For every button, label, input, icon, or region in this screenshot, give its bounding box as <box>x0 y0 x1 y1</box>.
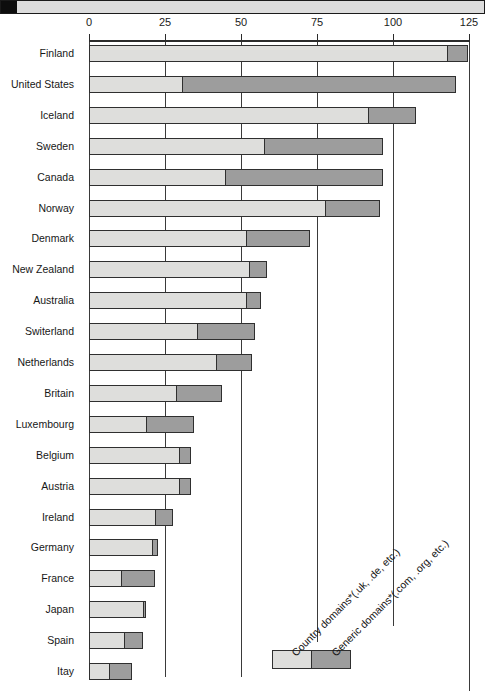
bar-segment-generic-domains[interactable] <box>225 169 383 186</box>
stacked-bar[interactable] <box>89 292 261 309</box>
bar-segment-country-domains[interactable] <box>89 509 156 526</box>
title-bar-caption <box>21 2 480 14</box>
bar-segment-country-domains[interactable] <box>89 45 448 62</box>
bar-segment-generic-domains[interactable] <box>249 261 267 278</box>
bar-row: Germany <box>0 536 485 558</box>
x-tick-label: 75 <box>311 16 323 28</box>
bar-row: France <box>0 567 485 589</box>
category-label: Itay <box>0 660 80 682</box>
bar-segment-generic-domains[interactable] <box>176 385 222 402</box>
bar-segment-generic-domains[interactable] <box>246 230 310 247</box>
stacked-bar[interactable] <box>89 601 146 618</box>
bar-row: Austria <box>0 475 485 497</box>
stacked-bar[interactable] <box>89 478 191 495</box>
bar-segment-generic-domains[interactable] <box>152 539 158 556</box>
bar-segment-generic-domains[interactable] <box>109 663 132 680</box>
category-label: New Zealand <box>0 258 80 280</box>
x-tick-label: 25 <box>159 16 171 28</box>
bar-segment-generic-domains[interactable] <box>197 323 255 340</box>
bar-segment-country-domains[interactable] <box>89 601 144 618</box>
bar-segment-generic-domains[interactable] <box>179 478 191 495</box>
bar-segment-generic-domains[interactable] <box>216 354 252 371</box>
bar-segment-country-domains[interactable] <box>89 230 247 247</box>
bar-segment-generic-domains[interactable] <box>146 416 195 433</box>
bar-segment-generic-domains[interactable] <box>325 200 380 217</box>
bar-segment-country-domains[interactable] <box>89 570 122 587</box>
bar-segment-country-domains[interactable] <box>89 138 265 155</box>
bar-row: Australia <box>0 289 485 311</box>
bar-segment-generic-domains[interactable] <box>155 509 173 526</box>
x-tick-mark <box>241 34 242 42</box>
bar-row: Ireland <box>0 506 485 528</box>
stacked-bar[interactable] <box>89 354 252 371</box>
bar-row: Luxembourg <box>0 413 485 435</box>
category-label: Norway <box>0 197 80 219</box>
category-label: Germany <box>0 536 80 558</box>
x-tick-label: 125 <box>460 16 478 28</box>
category-label: Belgium <box>0 444 80 466</box>
bar-row: Canada <box>0 166 485 188</box>
bar-segment-country-domains[interactable] <box>89 632 125 649</box>
stacked-bar[interactable] <box>89 570 155 587</box>
category-label: Spain <box>0 629 80 651</box>
stacked-bar[interactable] <box>89 200 380 217</box>
bar-segment-country-domains[interactable] <box>89 539 153 556</box>
stacked-bar[interactable] <box>89 509 173 526</box>
bar-segment-country-domains[interactable] <box>89 663 110 680</box>
x-tick-mark <box>165 34 166 42</box>
bar-row: Iceland <box>0 104 485 126</box>
title-bar-marker <box>1 1 17 13</box>
bar-segment-country-domains[interactable] <box>89 478 180 495</box>
bar-segment-generic-domains[interactable] <box>447 45 468 62</box>
bar-segment-country-domains[interactable] <box>89 385 177 402</box>
bar-segment-country-domains[interactable] <box>89 416 147 433</box>
bar-segment-generic-domains[interactable] <box>143 601 146 618</box>
category-label: Australia <box>0 289 80 311</box>
bar-segment-country-domains[interactable] <box>89 169 226 186</box>
stacked-bar[interactable] <box>89 416 194 433</box>
stacked-bar[interactable] <box>89 632 143 649</box>
bar-row: New Zealand <box>0 258 485 280</box>
x-tick-mark <box>317 34 318 42</box>
category-label: France <box>0 567 80 589</box>
category-label: Britain <box>0 382 80 404</box>
stacked-bar[interactable] <box>89 323 255 340</box>
bar-segment-country-domains[interactable] <box>89 200 326 217</box>
stacked-bar[interactable] <box>89 45 468 62</box>
bar-segment-country-domains[interactable] <box>89 107 369 124</box>
stacked-bar[interactable] <box>89 76 456 93</box>
bar-segment-country-domains[interactable] <box>89 292 247 309</box>
bar-row: Finland <box>0 42 485 64</box>
bar-segment-country-domains[interactable] <box>89 76 183 93</box>
stacked-bar[interactable] <box>89 663 132 680</box>
category-label: United States <box>0 73 80 95</box>
bar-segment-country-domains[interactable] <box>89 447 180 464</box>
category-label: Japan <box>0 598 80 620</box>
stacked-bar[interactable] <box>89 539 158 556</box>
bar-row: Norway <box>0 197 485 219</box>
bar-segment-generic-domains[interactable] <box>246 292 261 309</box>
stacked-bar[interactable] <box>89 169 383 186</box>
bar-row: Denmark <box>0 227 485 249</box>
stacked-bar[interactable] <box>89 107 416 124</box>
x-tick-label: 0 <box>86 16 92 28</box>
stacked-bar[interactable] <box>89 230 310 247</box>
category-label: Canada <box>0 166 80 188</box>
bar-segment-country-domains[interactable] <box>89 323 198 340</box>
stacked-bar[interactable] <box>89 261 267 278</box>
bar-segment-generic-domains[interactable] <box>121 570 154 587</box>
bar-segment-generic-domains[interactable] <box>182 76 456 93</box>
bar-segment-generic-domains[interactable] <box>368 107 417 124</box>
bar-segment-generic-domains[interactable] <box>124 632 142 649</box>
x-tick-mark <box>393 34 394 42</box>
bar-row: Spain <box>0 629 485 651</box>
category-label: Netherlands <box>0 351 80 373</box>
bar-segment-country-domains[interactable] <box>89 354 217 371</box>
bar-segment-generic-domains[interactable] <box>179 447 191 464</box>
stacked-bar[interactable] <box>89 447 191 464</box>
stacked-bar[interactable] <box>89 385 222 402</box>
bar-row: Britain <box>0 382 485 404</box>
bar-segment-generic-domains[interactable] <box>264 138 383 155</box>
bar-segment-country-domains[interactable] <box>89 261 250 278</box>
stacked-bar[interactable] <box>89 138 383 155</box>
